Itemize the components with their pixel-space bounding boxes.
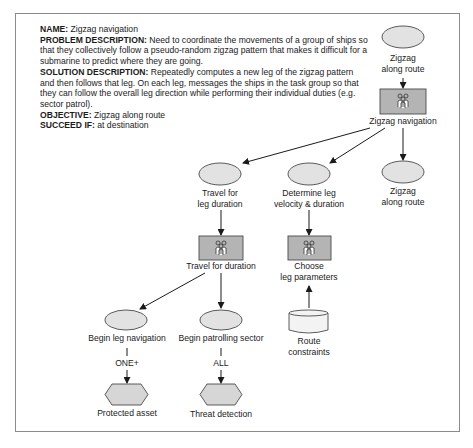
hexagon-threat-detection	[200, 384, 242, 405]
label-zigzag-navigation: Zigzag navigation	[369, 116, 436, 127]
label-determine-leg: Determine legvelocity & duration	[274, 188, 344, 210]
label-zigzag-route: Zigzagalong route	[381, 186, 424, 208]
edge-label-all: ALL	[213, 358, 228, 369]
goal-node-zigzag-route	[382, 161, 424, 183]
hexagon-protected-asset	[105, 384, 148, 405]
label-travel-leg: Travel forleg duration	[198, 188, 243, 210]
label-top-goal: Zigzagalong route	[381, 53, 424, 75]
goal-node-determine-leg	[288, 163, 330, 185]
label-route-constraints: Routeconstraints	[288, 336, 330, 358]
label-travel-duration: Travel for duration	[186, 261, 255, 272]
plan-node-zigzag-navigation	[380, 89, 426, 114]
label-begin-leg-nav: Begin leg navigation	[88, 333, 165, 344]
goal-node-travel-leg	[199, 163, 241, 185]
goal-node-begin-patrol	[200, 310, 242, 330]
label-threat-detection: Threat detection	[190, 409, 252, 420]
edge-label-one-plus: ONE+	[115, 358, 139, 369]
goal-node-begin-leg-nav	[105, 310, 147, 330]
label-choose-params: Chooseleg parameters	[280, 261, 337, 283]
label-begin-patrol: Begin patrolling sector	[178, 333, 263, 344]
label-protected-asset: Protected asset	[97, 408, 157, 419]
goal-node-top	[382, 26, 424, 48]
